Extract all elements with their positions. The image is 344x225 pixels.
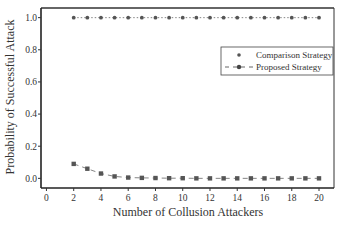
data-point <box>85 16 89 20</box>
data-point <box>140 176 144 180</box>
data-point <box>72 162 76 166</box>
data-point <box>99 16 103 20</box>
data-point <box>181 176 185 180</box>
data-point <box>303 16 307 20</box>
data-point <box>221 176 225 180</box>
data-point <box>263 16 267 20</box>
data-point <box>194 176 198 180</box>
data-point <box>235 16 239 20</box>
series-layer <box>72 16 322 181</box>
x-tick-label: 8 <box>153 193 158 203</box>
y-tick-label: 0.0 <box>25 174 37 184</box>
legend-marker-proposed <box>237 65 241 69</box>
data-point <box>112 174 116 178</box>
x-axis-title: Number of Collusion Attackers <box>113 205 264 219</box>
data-point <box>194 16 198 20</box>
data-point <box>126 16 130 20</box>
data-point <box>317 16 321 20</box>
legend-label-proposed: Proposed Strategy <box>256 62 322 72</box>
x-tick-label: 10 <box>178 193 188 203</box>
data-point <box>140 16 144 20</box>
x-tick-label: 2 <box>71 193 76 203</box>
data-point <box>303 176 307 180</box>
y-tick-label: 1.0 <box>25 13 37 23</box>
data-point <box>276 176 280 180</box>
y-axis: 0.00.20.40.60.81.0 <box>25 13 41 184</box>
data-point <box>208 176 212 180</box>
y-tick-label: 0.6 <box>25 77 37 87</box>
y-tick-label: 0.2 <box>25 142 37 152</box>
data-point <box>126 175 130 179</box>
x-tick-label: 18 <box>287 193 297 203</box>
data-point <box>208 16 212 20</box>
data-point <box>249 176 253 180</box>
y-axis-title: Probability of Successful Attack <box>3 20 17 175</box>
x-tick-label: 12 <box>205 193 215 203</box>
data-point <box>154 16 158 20</box>
series-comparison-strategy <box>72 16 321 20</box>
x-tick-label: 14 <box>232 193 242 203</box>
data-point <box>72 16 76 20</box>
x-tick-label: 6 <box>126 193 131 203</box>
x-tick-label: 16 <box>260 193 270 203</box>
y-tick-label: 0.8 <box>25 45 37 55</box>
data-point <box>290 16 294 20</box>
data-point <box>222 16 226 20</box>
data-point <box>181 16 185 20</box>
legend-marker-comparison <box>237 53 241 57</box>
x-tick-label: 4 <box>99 193 104 203</box>
data-point <box>113 16 117 20</box>
data-point <box>235 176 239 180</box>
x-axis: 02468101214161820 <box>44 188 324 203</box>
data-point <box>317 176 321 180</box>
series-proposed-strategy <box>72 162 322 181</box>
data-point <box>290 176 294 180</box>
data-point <box>249 16 253 20</box>
chart: 0.00.20.40.60.81.0 02468101214161820 Num… <box>0 0 344 225</box>
data-point <box>153 176 157 180</box>
legend: Comparison Strategy Proposed Strategy <box>221 47 333 75</box>
legend-label-comparison: Comparison Strategy <box>256 50 333 60</box>
plot-frame <box>41 8 334 188</box>
data-point <box>99 171 103 175</box>
data-point <box>167 16 171 20</box>
y-tick-label: 0.4 <box>25 109 37 119</box>
x-tick-label: 20 <box>314 193 324 203</box>
x-tick-label: 0 <box>44 193 49 203</box>
data-point <box>262 176 266 180</box>
data-point <box>167 176 171 180</box>
data-point <box>276 16 280 20</box>
data-point <box>85 167 89 171</box>
